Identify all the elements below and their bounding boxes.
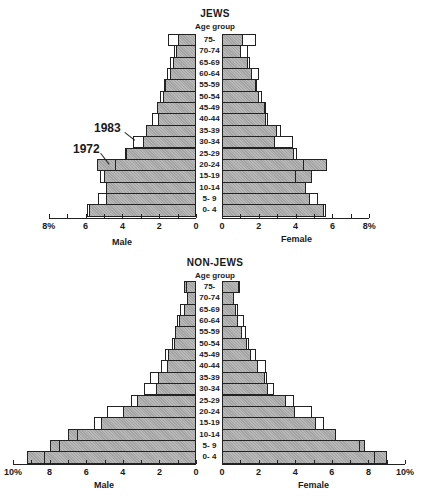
female-axis-tick-label: 2 (244, 467, 274, 477)
male-axis-tick-label: 8 (35, 467, 65, 477)
female-axis-tick (387, 460, 388, 464)
female-x-axis (222, 464, 405, 465)
male-bar-1983 (44, 451, 196, 463)
male-axis-tick (196, 460, 197, 464)
female-axis-tick (368, 460, 369, 464)
female-axis-tick-label: 0 (207, 467, 237, 477)
female-axis-tick-label: 10% (390, 467, 420, 477)
female-bar-1983 (222, 451, 375, 463)
female-axis-tick (222, 460, 223, 464)
age-group-label: Age group (0, 271, 430, 280)
age-group-tick-label: 65-69 (197, 304, 222, 315)
male-axis-tick (68, 460, 69, 464)
age-group-tick-label: 30-34 (197, 383, 222, 394)
male-axis-title: Male (94, 480, 114, 490)
age-group-tick-label: 55-59 (197, 326, 222, 337)
female-axis-tick (295, 460, 296, 464)
female-axis-tick (405, 460, 406, 464)
male-axis-tick (31, 460, 32, 464)
age-group-tick-label: 75- (197, 281, 222, 292)
male-axis-tick (123, 460, 124, 464)
female-axis-tick (314, 460, 315, 464)
non-jews-pyramid: NON-JEWS Age group 75-70-7465-6960-6455-… (0, 0, 430, 502)
age-row: 0- 4 (0, 451, 430, 463)
age-group-tick-label: 10-14 (197, 429, 222, 440)
age-group-tick-label: 5- 9 (197, 440, 222, 451)
male-axis-tick-label: 4 (108, 467, 138, 477)
female-axis-tick (350, 460, 351, 464)
age-group-tick-label: 25-29 (197, 395, 222, 406)
female-axis-tick-label: 6 (317, 467, 347, 477)
male-x-axis (13, 464, 196, 465)
age-group-tick-label: 15-19 (197, 417, 222, 428)
female-axis-tick-label: 8 (353, 467, 383, 477)
male-axis-tick (159, 460, 160, 464)
age-group-tick-label: 45-49 (197, 349, 222, 360)
male-axis-tick (141, 460, 142, 464)
age-group-tick-label: 50-54 (197, 338, 222, 349)
male-axis-tick (50, 460, 51, 464)
male-axis-tick (105, 460, 106, 464)
chart-title: NON-JEWS (0, 257, 430, 268)
age-group-tick-label: 35-39 (197, 372, 222, 383)
male-axis-tick (86, 460, 87, 464)
male-axis-tick-label: 2 (144, 467, 174, 477)
female-axis-tick (277, 460, 278, 464)
female-axis-tick-label: 4 (280, 467, 310, 477)
male-axis-tick (178, 460, 179, 464)
age-group-tick-label: 0- 4 (197, 451, 222, 462)
female-axis-tick (332, 460, 333, 464)
male-axis-tick (13, 460, 14, 464)
age-group-tick-label: 70-74 (197, 292, 222, 303)
age-group-tick-label: 20-24 (197, 406, 222, 417)
male-axis-tick-label: 10% (0, 467, 28, 477)
age-group-tick-label: 60-64 (197, 315, 222, 326)
female-axis-tick (259, 460, 260, 464)
female-axis-tick (240, 460, 241, 464)
male-axis-tick-label: 6 (71, 467, 101, 477)
age-group-tick-label: 40-44 (197, 360, 222, 371)
female-axis-title: Female (298, 480, 329, 490)
